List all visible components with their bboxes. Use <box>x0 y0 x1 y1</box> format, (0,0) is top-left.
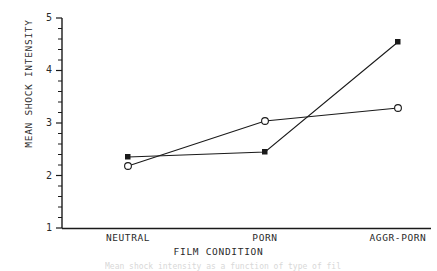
series-filled-square-markers <box>125 39 401 160</box>
x-tick-label-porn: PORN <box>252 232 277 243</box>
x-tick-label-neutral: NEUTRAL <box>106 232 150 243</box>
series-open-circle-line <box>128 108 398 166</box>
chart-figure: MEAN SHOCK INTENSITY 5 4 3 2 1 <box>0 0 437 271</box>
x-tick-label-aggr-porn: AGGR-PORN <box>370 232 427 243</box>
figure-caption: Mean shock intensity as a function of ty… <box>105 262 437 271</box>
x-axis-title: FILM CONDITION <box>0 246 437 257</box>
series-open-circle-markers <box>125 105 402 170</box>
chart-canvas <box>0 0 437 271</box>
series-filled-square-line <box>128 42 398 157</box>
